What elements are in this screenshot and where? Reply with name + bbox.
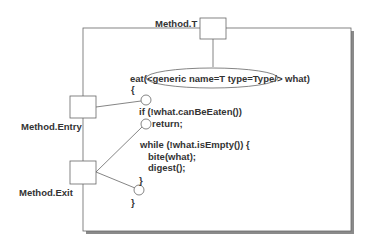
code-generic-tag: <generic name=T type=Type/> bbox=[147, 73, 283, 84]
code-close-method: } bbox=[131, 197, 135, 208]
code-close-while: } bbox=[139, 175, 143, 186]
method-container-box bbox=[83, 28, 351, 231]
method-entry-label: Method.Entry bbox=[21, 121, 82, 132]
end-exit-circle bbox=[134, 185, 144, 195]
method-t-label: Method.T bbox=[155, 18, 197, 29]
code-param: what) bbox=[282, 73, 309, 84]
return-exit-circle bbox=[141, 119, 151, 129]
code-return: return; bbox=[152, 118, 183, 129]
code-digest: digest(); bbox=[148, 162, 185, 173]
code-open-brace: { bbox=[131, 84, 135, 95]
code-while: while (!what.isEmpty()) { bbox=[140, 139, 250, 150]
method-exit-port bbox=[70, 161, 96, 184]
entry-point-circle bbox=[141, 95, 151, 105]
code-line-signature: eat(<generic name=T type=Type/> what) bbox=[130, 73, 310, 84]
method-exit-label: Method.Exit bbox=[19, 187, 73, 198]
code-bite: bite(what); bbox=[148, 151, 196, 162]
method-entry-port bbox=[70, 96, 96, 118]
code-if: if (!what.canBeEaten()) bbox=[139, 106, 242, 117]
method-t-port bbox=[200, 18, 226, 39]
code-eat: eat( bbox=[130, 73, 147, 84]
